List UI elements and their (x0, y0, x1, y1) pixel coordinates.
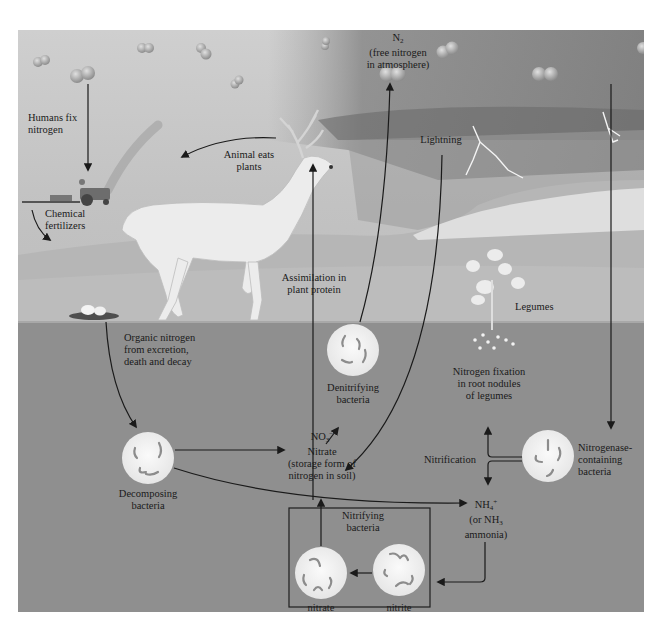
nitrification-label: Nitrification (424, 454, 476, 466)
nitrogenase-bacteria-label: Nitrogenase-containingbacteria (578, 442, 632, 478)
lightning-label: Lightning (411, 134, 471, 146)
assimilation-label: Assimilation inplant protein (271, 272, 357, 296)
nitrate-label: NO3− Nitrate (storage form of nitrogen i… (272, 428, 372, 482)
humans-fix-nitrogen-label: Humans fixnitrogen (28, 112, 77, 136)
organic-nitrogen-label: Organic nitrogenfrom excretion,death and… (124, 332, 195, 368)
denitrifying-bacteria-disc (327, 324, 379, 376)
decomposing-bacteria-label: Decomposingbacteria (108, 488, 188, 512)
animal-eats-plants-label: Animal eatsplants (213, 149, 285, 173)
nitrite-bacteria-disc (373, 544, 425, 596)
tractor-icon (22, 125, 158, 206)
nitrogen-cycle-diagram: N2 (free nitrogen in atmosphere) Humans … (18, 30, 644, 612)
nitrogen-fixation-label: Nitrogen fixationin root nodulesof legum… (448, 366, 530, 402)
denitrifying-bacteria-label: Denitrifyingbacteria (318, 382, 388, 406)
nitrate-bacteria-label: nitratebacteria (291, 602, 351, 612)
nitrite-bacteria-label: nitritebacteria (369, 602, 429, 612)
legumes-label: Legumes (515, 301, 554, 313)
decomposing-bacteria-disc (122, 432, 174, 484)
ammonia-label: NH4+ (or NH3 ammonia) (458, 496, 514, 541)
nitrate-bacteria-disc (295, 547, 347, 599)
chemical-fertilizers-label: Chemicalfertilizers (45, 208, 85, 232)
nitrogenase-bacteria-disc (522, 430, 574, 482)
n2-label: N2 (free nitrogen in atmosphere) (358, 32, 438, 71)
nitrifying-bacteria-label: Nitrifyingbacteria (330, 510, 396, 534)
